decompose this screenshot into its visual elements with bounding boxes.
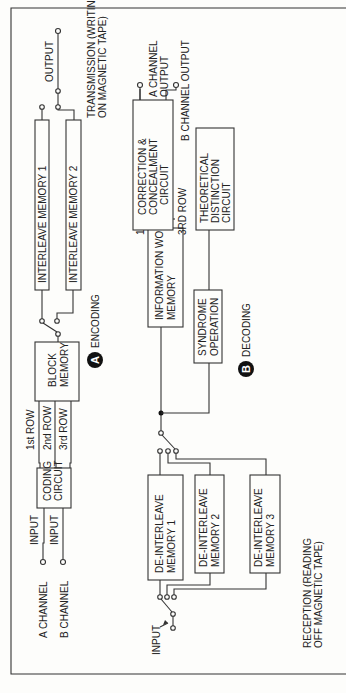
interleave-memory-2-label: INTERLEAVE MEMORY 2 [68, 165, 79, 283]
theoretical-label: THEORETICAL [199, 153, 210, 223]
decoding-badge-letter: B [240, 365, 252, 373]
coding-circuit-label-2: CIRCUIT [53, 460, 64, 501]
b-channel-label: B CHANNEL [59, 580, 70, 638]
output-label: OUTPUT [44, 41, 55, 82]
coding-circuit-label: CODING [42, 461, 53, 501]
information-word-memory-label: INFORMATION WORD [154, 216, 165, 320]
decoding-section: INPUT DE-INTERLEAVE MEMORY 1 DE-INTERLEA… [133, 40, 324, 655]
deinterleave-1-label-2: MEMORY 1 [166, 520, 177, 573]
deinterleave-2-label-2: MEMORY 2 [210, 514, 221, 567]
deinterleave-3-label: DE-INTERLEAVE [253, 488, 264, 567]
theoretical-label-3: CIRCUIT [221, 182, 232, 223]
output-terminal [56, 29, 61, 34]
b-channel-output-label: B CHANNEL OUTPUT [180, 40, 191, 141]
information-word-memory-label-2: MEMORY [166, 275, 177, 320]
encoding-badge-letter: A [89, 356, 101, 364]
syndrome-label-2: OPERATION [209, 298, 220, 356]
row-3-label: 3rd ROW [58, 408, 69, 450]
decoding-title: DECODING [241, 303, 252, 357]
decoding-switch-arm [162, 435, 175, 449]
a-channel-output-label: A CHANNEL [148, 40, 159, 97]
b-channel-output-terminal [174, 83, 179, 88]
deinterleave-3-label-2: MEMORY 3 [265, 514, 276, 567]
b-input-terminal [61, 560, 66, 565]
encoding-section: A CHANNEL B CHANNEL INPUT INPUT CODING C… [25, 0, 108, 638]
a-channel-output-terminal [138, 83, 143, 88]
theoretical-label-2: DISTINCTION [210, 159, 221, 223]
deinterleave-1-label: DE-INTERLEAVE [154, 494, 165, 573]
a-channel-label: A CHANNEL [38, 581, 49, 638]
row-1-label: 1st ROW [25, 409, 36, 450]
b-input-label: INPUT [49, 515, 60, 545]
transmission-label: TRANSMISSION (WRITING [86, 0, 97, 118]
block-memory-label: BLOCK [47, 353, 58, 387]
decoding-input-label: INPUT [151, 625, 162, 655]
correction-label: CORRECTION & [137, 138, 148, 215]
row-2-label: 2nd ROW [42, 406, 53, 450]
a-input-label: INPUT [29, 515, 40, 545]
interleave-memory-1-label: INTERLEAVE MEMORY 1 [37, 165, 48, 283]
encoding-decoding-block-diagram: A CHANNEL B CHANNEL INPUT INPUT CODING C… [0, 0, 346, 693]
encoding-title: ENCODING [90, 294, 101, 348]
decoding-row-3-label: 3RD ROW [177, 187, 188, 235]
deinterleave-2-label: DE-INTERLEAVE [198, 488, 209, 567]
encoding-switch-arm [43, 323, 57, 332]
a-channel-output-label-2: OUTPUT [159, 56, 170, 97]
a-input-terminal [41, 560, 46, 565]
reception-label: RECEPTION (READING [302, 538, 313, 648]
reception-label-2: OFF MAGNETIC TAPE) [313, 541, 324, 648]
correction-label-3: CIRCUIT [159, 164, 170, 205]
reception-switch-arm [161, 599, 172, 612]
block-memory-label-2: MEMORY [59, 342, 70, 387]
syndrome-label: SYNDROME [197, 298, 208, 356]
transmission-label-2: ON MAGNETIC TAPE) [97, 16, 108, 118]
correction-label-2: CONCEALMENT [148, 138, 159, 215]
